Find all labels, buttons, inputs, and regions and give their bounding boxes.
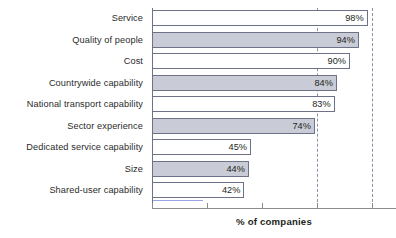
bar-chart: Service Quality of people Cost Countrywi… (0, 0, 396, 238)
origin-marker (153, 200, 203, 201)
bar-row: 90% (152, 51, 396, 73)
bar-value-label: 45% (229, 140, 247, 156)
x-axis-line (152, 208, 396, 209)
bar[interactable]: 74% (152, 118, 315, 134)
x-axis-tick (317, 203, 318, 209)
bar-row: 94% (152, 30, 396, 52)
bar-value-label: 44% (226, 162, 244, 178)
plot-area: 98% 94% 90% 84% 83% (152, 8, 396, 202)
category-label: Service (0, 8, 148, 30)
bar[interactable]: 98% (152, 10, 368, 26)
bar-row: 45% (152, 137, 396, 159)
bar-value-label: 83% (312, 97, 330, 113)
category-label: Quality of people (0, 30, 148, 52)
bar[interactable]: 90% (152, 53, 350, 69)
bar[interactable]: 44% (152, 161, 249, 177)
x-axis-tick (372, 203, 373, 209)
category-label: Countrywide capability (0, 73, 148, 95)
bar[interactable]: 45% (152, 139, 251, 155)
bar-row: 74% (152, 116, 396, 138)
bar-value-label: 42% (222, 183, 240, 199)
category-axis: Service Quality of people Cost Countrywi… (0, 8, 148, 202)
bar-row: 84% (152, 73, 396, 95)
x-axis-tick (207, 203, 208, 209)
bar-row: 83% (152, 94, 396, 116)
bar-value-label: 94% (336, 33, 354, 49)
x-axis-tick (262, 203, 263, 209)
bar-row: 98% (152, 8, 396, 30)
category-label: National transport capability (0, 94, 148, 116)
x-axis-tick (152, 203, 153, 209)
bar-row: 42% (152, 180, 396, 202)
bar[interactable]: 84% (152, 75, 337, 91)
bar-value-label: 84% (314, 76, 332, 92)
category-label: Shared-user capability (0, 180, 148, 202)
category-label: Cost (0, 51, 148, 73)
category-label: Sector experience (0, 116, 148, 138)
bar[interactable]: 83% (152, 96, 335, 112)
x-axis-title: % of companies (152, 216, 396, 227)
bar-value-label: 90% (328, 54, 346, 70)
category-label: Dedicated service capability (0, 137, 148, 159)
bar-row: 44% (152, 159, 396, 181)
bar[interactable]: 42% (152, 182, 244, 198)
bar[interactable]: 94% (152, 32, 359, 48)
y-axis-line (152, 8, 153, 208)
bar-value-label: 74% (292, 119, 310, 135)
bars-layer: 98% 94% 90% 84% 83% (152, 8, 396, 202)
bar-value-label: 98% (345, 11, 363, 27)
category-label: Size (0, 159, 148, 181)
